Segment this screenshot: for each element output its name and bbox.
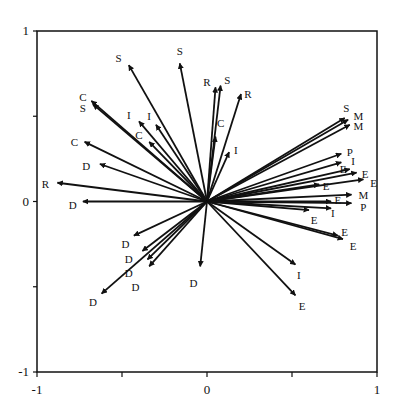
x-tick-label: 0 [204, 382, 211, 397]
vector-label: R [42, 178, 50, 190]
vector-label: D [125, 253, 133, 265]
vector-label: E [341, 226, 348, 238]
vector-label: I [127, 109, 131, 121]
vector-arrow [149, 202, 207, 267]
vector-label: E [370, 177, 377, 189]
vector-arrow [207, 202, 295, 265]
vector-label: I [147, 110, 151, 122]
vector-label: I [331, 207, 335, 219]
vector-label: E [299, 300, 306, 312]
vector-label: C [135, 129, 142, 141]
vector-label: I [351, 155, 355, 167]
vector-arrow [200, 202, 207, 267]
vector-label: D [82, 160, 90, 172]
vector-arrow [85, 142, 207, 202]
vector-label: C [71, 136, 78, 148]
vector-label: I [297, 269, 301, 281]
vector-label: S [224, 74, 230, 86]
vector-label: E [311, 214, 318, 226]
vector-label: D [69, 199, 77, 211]
y-tick-label: 1 [23, 23, 30, 38]
vector-label: E [335, 194, 342, 206]
vector-label: M [353, 120, 363, 132]
vector-label: D [189, 277, 197, 289]
x-tick-label: 1 [374, 382, 381, 397]
vector-arrows [57, 63, 363, 295]
y-tick-label: -1 [18, 364, 29, 379]
vector-label: I [234, 144, 238, 156]
vector-label: D [121, 238, 129, 250]
vector-label: S [343, 102, 349, 114]
vector-label: D [89, 296, 97, 308]
vector-label: M [359, 189, 369, 201]
vector-label: S [116, 52, 122, 64]
x-tick-label: -1 [32, 382, 43, 397]
vector-label: E [350, 240, 357, 252]
vector-label: E [340, 163, 347, 175]
vector-label: S [80, 102, 86, 114]
vector-label: D [132, 281, 140, 293]
vector-arrow [207, 202, 295, 296]
vector-label: P [360, 201, 366, 213]
y-tick-label: 0 [23, 194, 30, 209]
vector-label: D [125, 267, 133, 279]
vector-label: E [323, 180, 330, 192]
vector-label: R [203, 76, 211, 88]
vector-label: S [177, 45, 183, 57]
vector-label: R [244, 88, 252, 100]
biplot-chart: -10110-1 SSRSRCICSIICCDRDSMMPIEEEEMEPEIE… [0, 0, 393, 420]
vector-arrow [57, 183, 207, 202]
vector-label: E [362, 168, 369, 180]
vector-label: C [217, 117, 224, 129]
